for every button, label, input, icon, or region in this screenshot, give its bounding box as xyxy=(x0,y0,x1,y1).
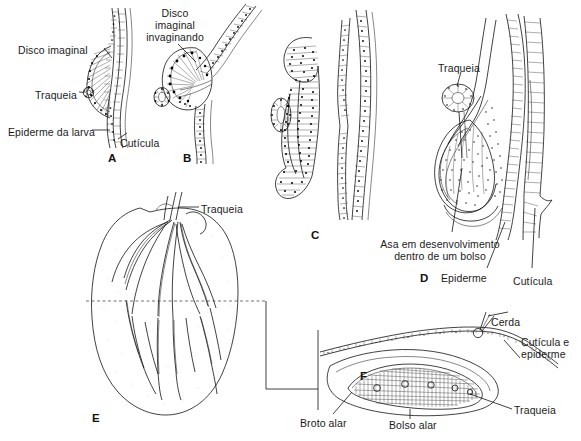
trachea-d xyxy=(442,84,474,112)
panel-letter-e: E xyxy=(92,412,100,424)
trachea-a xyxy=(83,87,93,98)
panel-c-drawing xyxy=(271,10,377,220)
label-broto-alar: Broto alar xyxy=(300,417,347,429)
panel-letter-f: F xyxy=(360,370,367,382)
panel-letter-a: A xyxy=(108,152,116,164)
label-epiderme-da-larva: Epiderme da larva xyxy=(8,126,95,138)
panel-f-drawing xyxy=(320,312,558,419)
tracheae-in-bud xyxy=(374,381,473,395)
leader-broto-alar xyxy=(333,392,352,414)
panel-letter-c: C xyxy=(311,229,319,241)
trachea-b xyxy=(154,88,170,107)
label-cuticula-a: Cutícula xyxy=(120,137,159,149)
label-cuticula-e-epiderme: Cutícula e epiderme xyxy=(521,336,569,360)
label-disco-imaginal-a: Disco imaginal xyxy=(18,44,88,56)
panel-letter-b: B xyxy=(183,152,191,164)
label-disco-imaginal-invaginando: Disco imaginal invaginando xyxy=(140,7,210,43)
label-bolso-alar: Bolso alar xyxy=(389,419,437,431)
figure-canvas: Disco imaginal Traqueia Epiderme da larv… xyxy=(0,0,581,441)
illustration-svg xyxy=(0,0,581,441)
label-traqueia-e: Traqueia xyxy=(201,203,243,215)
section-bracket xyxy=(266,301,318,410)
panel-letter-d: D xyxy=(420,272,428,284)
panel-d-drawing xyxy=(435,14,552,268)
leader-cuticula-epiderme xyxy=(504,340,520,358)
leader-traqueia-f xyxy=(470,394,512,409)
label-asa-em-desenvolvimento: Asa em desenvolvimento dentro de um bols… xyxy=(360,238,520,262)
label-epiderme-d: Epiderme xyxy=(441,272,487,284)
label-traqueia-d: Traqueia xyxy=(438,62,480,74)
label-cerda: Cerda xyxy=(491,316,520,328)
panel-e-drawing xyxy=(86,192,318,415)
leader-cuticula-d xyxy=(532,208,535,268)
label-traqueia-a: Traqueia xyxy=(35,89,77,101)
label-cuticula-d: Cutícula xyxy=(513,275,552,287)
label-traqueia-f: Traqueia xyxy=(514,404,556,416)
